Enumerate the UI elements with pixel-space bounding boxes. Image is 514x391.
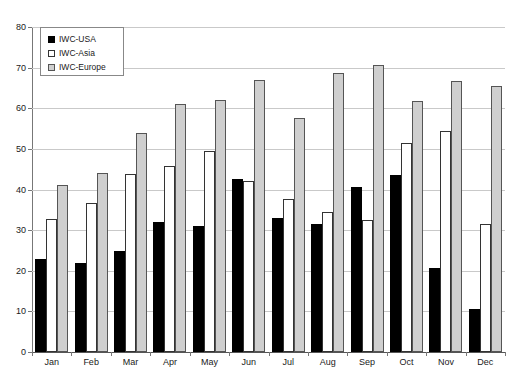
bar-usa[interactable] (390, 175, 401, 352)
bar-europe[interactable] (373, 65, 384, 352)
bar-group (150, 27, 189, 352)
bar-usa[interactable] (469, 309, 480, 352)
bar-group (466, 27, 505, 352)
y-tick-label: 70 (2, 64, 26, 73)
legend-swatch-icon-usa (48, 36, 55, 43)
bar-europe[interactable] (451, 81, 462, 352)
bar-europe[interactable] (412, 101, 423, 352)
legend-label-europe: IWC-Europe (59, 62, 106, 72)
legend-item-usa: IWC-USA (48, 32, 118, 46)
y-tick-label: 50 (2, 145, 26, 154)
bar-asia[interactable] (46, 219, 57, 352)
bar-asia[interactable] (480, 224, 491, 352)
bar-europe[interactable] (333, 73, 344, 352)
bar-asia[interactable] (362, 220, 373, 352)
x-tick-label: Jul (269, 356, 308, 376)
bar-usa[interactable] (232, 179, 243, 352)
bar-asia[interactable] (401, 143, 412, 352)
bar-asia[interactable] (322, 212, 333, 352)
bar-europe[interactable] (57, 185, 68, 352)
bar-usa[interactable] (272, 218, 283, 352)
x-tick-label: Jan (32, 356, 71, 376)
legend-item-asia: IWC-Asia (48, 46, 118, 60)
bar-usa[interactable] (75, 263, 86, 352)
y-tick-label: 0 (2, 348, 26, 357)
bar-usa[interactable] (193, 226, 204, 352)
bar-group (426, 27, 465, 352)
bar-usa[interactable] (429, 268, 440, 352)
bar-asia[interactable] (440, 131, 451, 352)
bar-group (308, 27, 347, 352)
bar-usa[interactable] (311, 224, 322, 352)
bar-europe[interactable] (294, 118, 305, 352)
x-tick-label: Sep (347, 356, 386, 376)
y-tick-label: 10 (2, 307, 26, 316)
bar-europe[interactable] (97, 173, 108, 352)
x-tick-label: Apr (150, 356, 189, 376)
bar-group (269, 27, 308, 352)
legend-label-usa: IWC-USA (59, 34, 96, 44)
bar-chart: 01020304050607080 JanFebMarAprMayJunJulA… (0, 0, 514, 391)
x-tick-label: Mar (111, 356, 150, 376)
x-tick-label: May (190, 356, 229, 376)
bar-asia[interactable] (86, 203, 97, 352)
bar-group (387, 27, 426, 352)
bar-usa[interactable] (351, 187, 362, 352)
bar-asia[interactable] (125, 174, 136, 352)
y-tick-label: 30 (2, 226, 26, 235)
x-axis-labels: JanFebMarAprMayJunJulAugSepOctNovDec (32, 356, 505, 376)
bar-group (190, 27, 229, 352)
bar-asia[interactable] (204, 151, 215, 353)
bar-usa[interactable] (153, 222, 164, 352)
legend-swatch-icon-europe (48, 64, 55, 71)
bar-asia[interactable] (164, 166, 175, 352)
y-tick-label: 20 (2, 267, 26, 276)
bar-europe[interactable] (254, 80, 265, 352)
x-tick-label: Jun (229, 356, 268, 376)
bar-europe[interactable] (136, 133, 147, 352)
x-tick-mark (505, 352, 506, 356)
legend-label-asia: IWC-Asia (59, 48, 95, 58)
x-tick-label: Aug (308, 356, 347, 376)
y-tick-label: 60 (2, 104, 26, 113)
bar-usa[interactable] (114, 251, 125, 352)
y-tick-label: 40 (2, 186, 26, 195)
x-tick-label: Oct (387, 356, 426, 376)
bar-europe[interactable] (491, 86, 502, 352)
bar-group (229, 27, 268, 352)
bar-asia[interactable] (243, 181, 254, 352)
bar-group (347, 27, 386, 352)
bar-usa[interactable] (35, 259, 46, 352)
bar-asia[interactable] (283, 199, 294, 352)
bar-europe[interactable] (175, 104, 186, 352)
bar-europe[interactable] (215, 100, 226, 352)
legend-swatch-icon-asia (48, 50, 55, 57)
x-tick-label: Dec (466, 356, 505, 376)
x-tick-label: Nov (426, 356, 465, 376)
legend-item-europe: IWC-Europe (48, 60, 118, 74)
chart-legend: IWC-USA IWC-Asia IWC-Europe (40, 27, 124, 76)
y-tick-label: 80 (2, 23, 26, 32)
x-tick-label: Feb (71, 356, 110, 376)
